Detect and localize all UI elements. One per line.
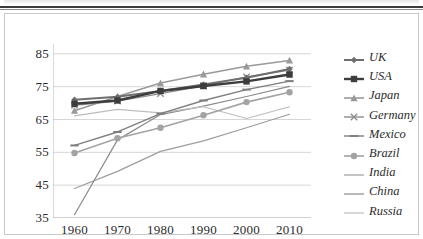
legend-item-usa[interactable]: USA — [343, 67, 423, 86]
data-point-marker — [243, 78, 249, 84]
data-point-marker — [71, 101, 77, 107]
data-point-marker — [200, 83, 206, 89]
legend-item-china[interactable]: China — [343, 182, 423, 201]
legend-item-japan[interactable]: Japan — [343, 86, 423, 105]
legend-label: Japan — [369, 88, 400, 103]
y-axis-tick-label: 35 — [25, 210, 49, 226]
legend-label: Brazil — [369, 146, 400, 161]
data-point-marker — [200, 112, 206, 118]
x-axis-tick-label: 1980 — [147, 222, 174, 238]
legend-marker-germany-icon — [343, 109, 365, 121]
x-axis-tick-label: 1970 — [104, 222, 131, 238]
data-point-marker — [286, 71, 292, 77]
x-axis-tick-label: 2010 — [276, 222, 303, 238]
series-line-china — [75, 86, 290, 214]
series-line-russia — [75, 107, 290, 119]
series-line-india — [75, 114, 290, 188]
series-line-mexico — [75, 81, 290, 145]
data-point-marker — [71, 150, 77, 156]
y-axis-labels: 857565554535 — [21, 44, 49, 218]
series-line-japan — [75, 60, 290, 110]
legend-label: Germany — [369, 108, 416, 123]
data-point-marker — [114, 135, 120, 141]
page-horizontal-rule-secondary — [0, 9, 423, 10]
series-line-uk — [75, 69, 290, 100]
y-axis-tick-label: 85 — [25, 46, 49, 62]
chart-legend: UKUSAJapanGermanyMexicoBrazilIndiaChinaR… — [343, 48, 423, 221]
legend-item-russia[interactable]: Russia — [343, 202, 423, 221]
data-point-marker — [157, 88, 163, 94]
y-axis-tick-label: 75 — [25, 79, 49, 95]
y-axis-tick-label: 45 — [25, 177, 49, 193]
page-horizontal-rule — [0, 6, 423, 8]
legend-marker-usa-icon — [343, 71, 365, 83]
data-point-marker — [351, 56, 357, 62]
data-point-marker — [157, 125, 163, 131]
legend-marker-russia-icon — [343, 205, 365, 217]
legend-item-india[interactable]: India — [343, 163, 423, 182]
legend-marker-uk-icon — [343, 52, 365, 64]
legend-marker-brazil-icon — [343, 148, 365, 160]
legend-item-uk[interactable]: UK — [343, 48, 423, 67]
y-axis-tick-label: 55 — [25, 144, 49, 160]
x-axis-labels: 196019701980199020002010 — [53, 222, 311, 239]
data-point-marker — [243, 99, 249, 105]
legend-label: China — [369, 184, 400, 199]
data-point-marker — [351, 152, 357, 158]
legend-label: USA — [369, 69, 392, 84]
legend-marker-india-icon — [343, 167, 365, 179]
x-axis-tick-label: 1990 — [190, 222, 217, 238]
chart-frame: 857565554535 196019701980199020002010 UK… — [4, 13, 419, 235]
legend-label: Russia — [369, 204, 402, 219]
plot-area — [53, 44, 311, 218]
page-top-artifact — [4, 0, 419, 5]
legend-label: India — [369, 165, 395, 180]
x-axis-tick-label: 1960 — [61, 222, 88, 238]
y-axis-tick-label: 65 — [25, 112, 49, 128]
legend-label: UK — [369, 50, 386, 65]
x-axis-tick-label: 2000 — [233, 222, 260, 238]
legend-item-mexico[interactable]: Mexico — [343, 125, 423, 144]
legend-marker-japan-icon — [343, 90, 365, 102]
legend-item-brazil[interactable]: Brazil — [343, 144, 423, 163]
legend-marker-china-icon — [343, 186, 365, 198]
data-point-marker — [351, 76, 357, 82]
line-chart-svg — [53, 44, 311, 218]
chart-screenshot: 857565554535 196019701980199020002010 UK… — [0, 0, 423, 239]
legend-marker-mexico-icon — [343, 128, 365, 140]
data-point-marker — [286, 89, 292, 95]
legend-label: Mexico — [369, 127, 406, 142]
data-point-marker — [114, 97, 120, 103]
legend-item-germany[interactable]: Germany — [343, 106, 423, 125]
